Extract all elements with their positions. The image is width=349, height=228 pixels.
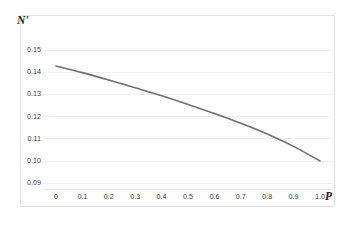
x-tick-label: 0.9 <box>282 192 306 201</box>
x-tick-label: 0.6 <box>202 192 226 201</box>
chart-figure: 0.150.140.130.120.110.100.09 00.10.20.30… <box>0 0 349 228</box>
x-tick-label: 0.1 <box>70 192 94 201</box>
x-tick-label: 0.2 <box>97 192 121 201</box>
y-axis-title: N' <box>17 14 29 26</box>
x-tick-label: 0.3 <box>123 192 147 201</box>
x-axis-title: P <box>325 190 332 202</box>
x-tick-label: 0.5 <box>176 192 200 201</box>
x-tick-label: 0.7 <box>229 192 253 201</box>
x-tick-label: 0 <box>44 192 68 201</box>
x-tick-label: 0.8 <box>255 192 279 201</box>
x-axis-tick-labels: 00.10.20.30.40.50.60.70.80.91.0 <box>0 0 349 228</box>
x-tick-label: 0.4 <box>150 192 174 201</box>
